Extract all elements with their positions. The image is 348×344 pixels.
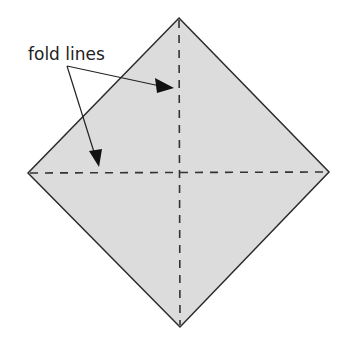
vertical-fold-line [179,20,180,325]
paper-square [28,18,329,327]
fold-lines-label: fold lines [28,44,105,64]
origami-fold-diagram: fold lines [0,0,348,344]
